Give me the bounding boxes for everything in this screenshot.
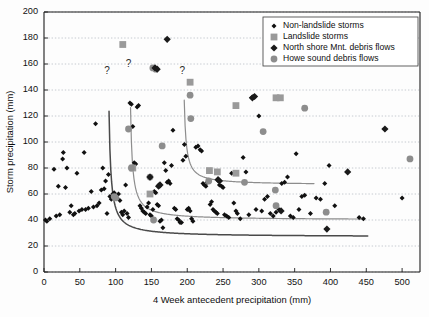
y-tick-label: 20	[28, 240, 38, 250]
data-point	[112, 195, 119, 202]
data-point	[260, 128, 267, 135]
y-tick-label: 180	[23, 32, 38, 42]
y-tick-label: 0	[33, 266, 38, 276]
data-point	[272, 187, 279, 194]
data-point	[150, 217, 157, 224]
question-mark-annotation: ?	[126, 58, 132, 69]
x-tick-label: 150	[144, 277, 159, 287]
question-mark-annotation: ?	[179, 65, 185, 76]
y-tick-label: 40	[28, 214, 38, 224]
x-tick-label: 500	[394, 277, 409, 287]
legend-marker-1	[271, 34, 278, 41]
legend-label-1: Landslide storms	[283, 31, 348, 41]
data-point	[159, 143, 166, 150]
question-mark-annotation: ?	[104, 65, 110, 76]
data-point	[273, 202, 280, 209]
legend-label-2: North shore Mnt. debris flows	[283, 42, 395, 52]
data-point	[187, 79, 194, 86]
legend-marker-3	[271, 56, 278, 63]
x-axis-title: 4 Week antecedent precipitation (mm)	[153, 294, 311, 305]
data-point	[128, 165, 135, 172]
data-point	[233, 102, 240, 109]
data-point	[187, 115, 194, 122]
data-point	[125, 126, 132, 133]
y-axis-title: Storm precipitation (mm)	[4, 91, 15, 194]
scatter-plot-svg: 020406080100120140160180200 050100150200…	[0, 0, 429, 317]
chart-legend: Non-landslide stormsLandslide stormsNort…	[263, 17, 418, 66]
y-tick-label: 80	[28, 162, 38, 172]
data-point	[119, 41, 126, 48]
data-point	[241, 179, 248, 186]
x-tick-label: 200	[180, 277, 195, 287]
data-point	[323, 209, 330, 216]
data-point	[147, 191, 154, 198]
data-point	[233, 170, 240, 177]
data-point	[214, 169, 221, 176]
y-tick-label: 160	[23, 58, 38, 68]
y-tick-label: 100	[23, 136, 38, 146]
x-tick-label: 250	[215, 277, 230, 287]
y-tick-label: 120	[23, 110, 38, 120]
x-tick-label: 450	[359, 277, 374, 287]
data-point	[277, 94, 284, 101]
data-point	[301, 105, 308, 112]
x-tick-label: 300	[251, 277, 266, 287]
legend-label-0: Non-landslide storms	[283, 20, 364, 30]
data-point	[187, 92, 194, 99]
data-point	[205, 178, 212, 185]
chart-figure: 020406080100120140160180200 050100150200…	[0, 0, 429, 317]
x-tick-label: 50	[75, 277, 85, 287]
x-tick-label: 400	[323, 277, 338, 287]
legend-label-3: Howe sound debris flows	[283, 53, 379, 63]
y-tick-label: 200	[23, 6, 38, 16]
x-tick-label: 350	[287, 277, 302, 287]
y-tick-label: 140	[23, 84, 38, 94]
data-point	[407, 156, 414, 163]
x-tick-label: 100	[108, 277, 123, 287]
data-point	[206, 167, 213, 174]
x-tick-label: 0	[41, 277, 46, 287]
y-tick-label: 60	[28, 188, 38, 198]
